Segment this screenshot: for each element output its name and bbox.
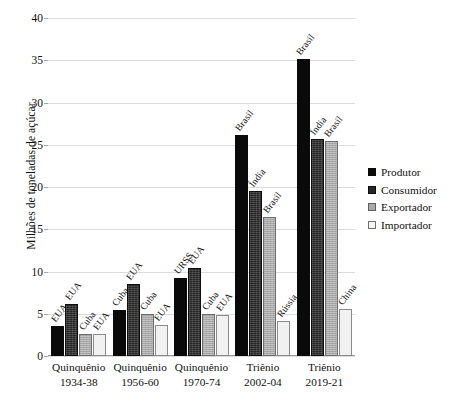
legend-label: Consumidor [381, 184, 437, 196]
bar-slot: Brasil [325, 18, 338, 356]
bar-value-label: China [336, 281, 359, 306]
legend-label: Exportador [381, 201, 432, 213]
legend-swatch-icon [368, 168, 376, 176]
bar-groups: EUAEUACubaEUACubaEUACubaEUAURSSEUACubaEU… [48, 18, 355, 356]
legend-item[interactable]: Consumidor [368, 184, 437, 196]
bar-group: URSSEUACubaEUA [171, 18, 232, 356]
x-axis-label-period: Quinquênio [175, 361, 228, 373]
bar-slot: Cuba [113, 18, 126, 356]
bar-slot: Rússia [277, 18, 290, 356]
legend-label: Importador [381, 219, 432, 231]
x-axis-label-years: 2002-04 [232, 375, 293, 390]
bar[interactable] [297, 59, 310, 356]
bar-group: EUAEUACubaEUA [48, 18, 109, 356]
x-axis-label-period: Quinquênio [52, 361, 105, 373]
bar-slot: Índia [311, 18, 324, 356]
y-tick-label: 30 [32, 97, 44, 109]
bar-slot: EUA [216, 18, 229, 356]
x-axis-label-years: 1956-60 [109, 375, 170, 390]
bar-value-label: EUA [213, 291, 234, 314]
bar-group-bars: CubaEUACubaEUA [109, 18, 170, 356]
bar-slot: Brasil [297, 18, 310, 356]
bar-slot: EUA [93, 18, 106, 356]
bar[interactable] [79, 334, 92, 356]
bar[interactable] [311, 139, 324, 356]
bar[interactable] [174, 278, 187, 356]
bar-slot: Cuba [79, 18, 92, 356]
bar[interactable] [339, 309, 352, 356]
bar[interactable] [325, 141, 338, 356]
y-tick-label: 20 [32, 181, 44, 193]
bar[interactable] [155, 325, 168, 356]
y-tick-label: 35 [32, 54, 44, 66]
bar[interactable] [263, 217, 276, 356]
bar-slot: URSS [174, 18, 187, 356]
bar-value-label: EUA [90, 309, 111, 332]
bar[interactable] [188, 268, 201, 356]
plot-area: 0510152025303540 EUAEUACubaEUACubaEUACub… [48, 18, 355, 356]
x-axis-label-years: 1934-38 [48, 375, 109, 390]
legend-swatch-icon [368, 203, 376, 211]
bar-slot: EUA [65, 18, 78, 356]
y-tick-label: 40 [32, 12, 44, 24]
bar-slot: Cuba [141, 18, 154, 356]
bar[interactable] [113, 310, 126, 356]
y-tick-label: 0 [37, 350, 43, 362]
x-axis-label-period: Quinquênio [113, 361, 166, 373]
bar-group-bars: BrasilÍndiaBrasilChina [294, 18, 355, 356]
bar-slot: China [339, 18, 352, 356]
y-tick-label: 10 [32, 266, 44, 278]
bar-slot: EUA [51, 18, 64, 356]
legend-item[interactable]: Produtor [368, 166, 437, 178]
bar[interactable] [277, 321, 290, 356]
x-axis-label: Quinquênio1970-74 [171, 360, 232, 389]
legend-label: Produtor [381, 166, 421, 178]
bar-value-label: EUA [151, 300, 172, 323]
bar-group-bars: BrasilÍndiaBrasilRússia [232, 18, 293, 356]
x-axis-label-years: 1970-74 [171, 375, 232, 390]
bar-slot: Brasil [263, 18, 276, 356]
x-axis-label-period: Triênio [246, 361, 279, 373]
bar-group: BrasilÍndiaBrasilRússia [232, 18, 293, 356]
sugar-bar-chart: Milhões de toneladas de açúcar 051015202… [0, 0, 455, 414]
bar-slot: EUA [155, 18, 168, 356]
bar[interactable] [127, 284, 140, 356]
y-tick-label: 15 [32, 223, 44, 235]
x-axis-label-period: Triênio [308, 361, 341, 373]
bar[interactable] [141, 314, 154, 356]
x-axis-label: Triênio2019-21 [294, 360, 355, 389]
bar-group-bars: URSSEUACubaEUA [171, 18, 232, 356]
legend-swatch-icon [368, 186, 376, 194]
bar[interactable] [93, 334, 106, 356]
x-axis-labels: Quinquênio1934-38Quinquênio1956-60Quinqu… [48, 360, 355, 389]
bar[interactable] [51, 326, 64, 356]
y-tick-label: 5 [37, 308, 43, 320]
bar-group: BrasilÍndiaBrasilChina [294, 18, 355, 356]
bar[interactable] [216, 315, 229, 356]
y-tick-mark [44, 356, 48, 357]
bar-slot: Brasil [235, 18, 248, 356]
y-tick-label: 25 [32, 139, 44, 151]
x-axis-label: Quinquênio1956-60 [109, 360, 170, 389]
chart-legend: ProdutorConsumidorExportadorImportador [368, 166, 437, 231]
bar[interactable] [249, 191, 262, 356]
gridline [48, 356, 355, 357]
bar[interactable] [202, 314, 215, 356]
bar-slot: Índia [249, 18, 262, 356]
x-axis-label: Quinquênio1934-38 [48, 360, 109, 389]
legend-swatch-icon [368, 221, 376, 229]
legend-item[interactable]: Importador [368, 219, 437, 231]
bar[interactable] [235, 135, 248, 356]
bar-group-bars: EUAEUACubaEUA [48, 18, 109, 356]
legend-item[interactable]: Exportador [368, 201, 437, 213]
bar[interactable] [65, 304, 78, 356]
bar-group: CubaEUACubaEUA [109, 18, 170, 356]
x-axis-label: Triênio2002-04 [232, 360, 293, 389]
x-axis-label-years: 2019-21 [294, 375, 355, 390]
